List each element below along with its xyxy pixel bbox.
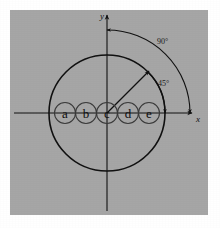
figure-root: x y 90° 45° a b c bbox=[0, 0, 220, 228]
x-axis-label: x bbox=[195, 114, 200, 124]
angle-label-45: 45° bbox=[158, 79, 169, 88]
small-circle-e-label: e bbox=[146, 106, 152, 121]
small-circle-b-label: b bbox=[83, 106, 90, 121]
small-circle-c-label: c bbox=[104, 106, 110, 121]
small-circle-a-label: a bbox=[62, 106, 68, 121]
y-axis-label: y bbox=[99, 11, 104, 21]
small-circle-d-label: d bbox=[125, 106, 132, 121]
angle-label-90: 90° bbox=[157, 37, 168, 46]
figure-canvas: x y 90° 45° a b c bbox=[0, 0, 220, 228]
